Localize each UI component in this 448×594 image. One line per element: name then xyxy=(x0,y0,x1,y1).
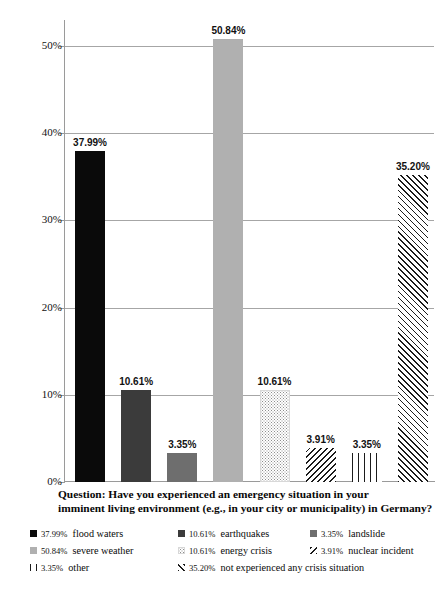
legend-label: energy crisis xyxy=(221,545,273,556)
legend-percent: 37.99% xyxy=(41,529,68,539)
legend-percent: 3.91% xyxy=(321,546,343,556)
legend-label: not experienced any crisis situation xyxy=(221,562,365,573)
chart-page: 50%40%30%20%10%0% 37.99%10.61%3.35%50.84… xyxy=(0,0,448,594)
gridline-30 xyxy=(65,220,434,221)
legend-percent: 10.61% xyxy=(189,529,216,539)
legend-item-flood-waters[interactable]: 37.99%flood waters xyxy=(30,525,123,542)
legend-swatch-light-gray-icon xyxy=(30,547,37,554)
bar-value-label: 3.35% xyxy=(155,439,209,450)
legend-item-other[interactable]: 3.35%other xyxy=(30,559,89,576)
legend-item-energy-crisis[interactable]: 10.61%energy crisis xyxy=(178,542,272,559)
bar-not-experienced-any-crisis-situation[interactable] xyxy=(398,175,428,482)
legend-row: 50.84%severe weather10.61%energy crisis3… xyxy=(30,542,442,559)
gridline-20 xyxy=(65,308,434,309)
legend-item-severe-weather[interactable]: 50.84%severe weather xyxy=(30,542,133,559)
legend: 37.99%flood waters10.61%earthquakes3.35%… xyxy=(30,525,442,576)
bar-nuclear-incident[interactable] xyxy=(306,448,336,482)
y-axis-tick-label: 20% xyxy=(18,302,62,312)
legend-label: nuclear incident xyxy=(348,545,413,556)
bar-value-label: 50.84% xyxy=(201,25,255,36)
legend-swatch-dots-icon xyxy=(178,547,185,554)
bar-other[interactable] xyxy=(352,453,382,482)
legend-swatch-dark-gray-icon xyxy=(178,530,185,537)
legend-label: flood waters xyxy=(73,528,124,539)
bar-value-label: 3.35% xyxy=(340,439,394,450)
legend-swatch-vertical-lines-icon xyxy=(30,564,37,571)
bar-value-label: 37.99% xyxy=(63,137,117,148)
legend-swatch-solid-black-icon xyxy=(30,530,37,537)
legend-label: severe weather xyxy=(73,545,134,556)
bar-value-label: 10.61% xyxy=(248,376,302,387)
legend-percent: 3.35% xyxy=(41,563,63,573)
legend-percent: 10.61% xyxy=(189,546,216,556)
gridline-40 xyxy=(65,133,434,134)
bar-earthquakes[interactable] xyxy=(121,390,151,482)
legend-item-not-experienced-any-crisis-situation[interactable]: 35.20%not experienced any crisis situati… xyxy=(178,559,364,576)
y-axis-tick-label: 0% xyxy=(18,476,62,486)
question-line-2: imminent living environment (e.g., in yo… xyxy=(58,501,442,515)
legend-label: other xyxy=(68,562,89,573)
bar-severe-weather[interactable] xyxy=(213,39,243,482)
legend-label: earthquakes xyxy=(221,528,270,539)
plot-area: 50%40%30%20%10%0% 37.99%10.61%3.35%50.84… xyxy=(65,20,434,482)
legend-percent: 50.84% xyxy=(41,546,68,556)
gridline-50 xyxy=(65,46,434,47)
y-axis-tick-label: 40% xyxy=(18,127,62,137)
y-axis-tick-label: 50% xyxy=(18,40,62,50)
legend-item-landslide[interactable]: 3.35%landslide xyxy=(310,525,385,542)
legend-swatch-mid-gray-icon xyxy=(310,530,317,537)
legend-label: landslide xyxy=(348,528,385,539)
y-axis-line xyxy=(64,20,65,482)
legend-swatch-hatch-backward-icon xyxy=(310,547,317,554)
y-axis-tick-label: 30% xyxy=(18,214,62,224)
legend-swatch-hatch-forward-icon xyxy=(178,564,185,571)
legend-row: 37.99%flood waters10.61%earthquakes3.35%… xyxy=(30,525,442,542)
legend-row: 3.35%other35.20%not experienced any cris… xyxy=(30,559,442,576)
bar-flood-waters[interactable] xyxy=(75,151,105,482)
legend-item-nuclear-incident[interactable]: 3.91%nuclear incident xyxy=(310,542,414,559)
bar-value-label: 35.20% xyxy=(386,161,440,172)
legend-item-earthquakes[interactable]: 10.61%earthquakes xyxy=(178,525,269,542)
question-line-1: Question: Have you experienced an emerge… xyxy=(58,487,442,501)
legend-percent: 35.20% xyxy=(189,563,216,573)
legend-percent: 3.35% xyxy=(321,529,343,539)
bar-value-label: 10.61% xyxy=(109,376,163,387)
bar-energy-crisis[interactable] xyxy=(260,390,290,482)
bar-landslide[interactable] xyxy=(167,453,197,482)
y-axis-tick-label: 10% xyxy=(18,389,62,399)
question-block: Question: Have you experienced an emerge… xyxy=(58,487,442,515)
